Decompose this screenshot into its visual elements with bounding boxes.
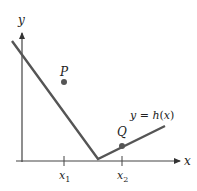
point-p bbox=[61, 79, 67, 85]
point-q bbox=[119, 143, 125, 149]
graph-svg: y x P Q x1 x2 y = h(x) bbox=[0, 0, 197, 191]
x-axis-label: x bbox=[184, 154, 191, 168]
curve-label: y = h(x) bbox=[129, 109, 174, 122]
point-q-label: Q bbox=[117, 125, 127, 139]
tick-x1-label: x1 bbox=[59, 169, 70, 184]
function-curve bbox=[12, 41, 165, 159]
diagram-canvas: y x P Q x1 x2 y = h(x) bbox=[0, 0, 197, 191]
point-p-label: P bbox=[59, 65, 69, 79]
tick-x2-label: x2 bbox=[117, 169, 128, 184]
y-axis-label: y bbox=[17, 13, 25, 27]
